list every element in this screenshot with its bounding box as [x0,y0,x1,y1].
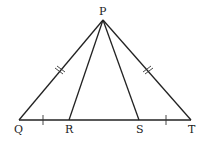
label-t: T [188,123,196,136]
triangle-diagram: P Q R S T [0,0,206,145]
segment-pr [69,20,103,120]
label-p: P [99,5,107,18]
segment-ps [103,20,139,120]
segment-pt [103,20,191,120]
label-s: S [136,123,144,136]
label-q: Q [14,123,23,136]
segment-pq [19,20,103,120]
label-r: R [65,123,74,136]
